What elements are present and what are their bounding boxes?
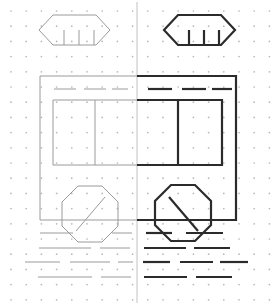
- grid-dot: [147, 147, 149, 149]
- grid-dot: [253, 147, 255, 149]
- grid-dot: [71, 56, 73, 58]
- grid-dot: [147, 299, 149, 301]
- grid-dot: [208, 162, 210, 164]
- grid-dot: [132, 147, 134, 149]
- grid-dot: [41, 253, 43, 255]
- grid-dot: [25, 71, 27, 73]
- grid-dot: [208, 86, 210, 88]
- grid-dot: [147, 86, 149, 88]
- grid-dot: [71, 86, 73, 88]
- grid-dot: [25, 238, 27, 240]
- grid-dot: [269, 223, 271, 225]
- grid-dot: [269, 147, 271, 149]
- grid-dot: [238, 238, 240, 240]
- grid-dot: [117, 162, 119, 164]
- grid-dot: [238, 132, 240, 134]
- grid-dot: [86, 101, 88, 103]
- grid-dot: [10, 117, 12, 119]
- grid-dot: [162, 10, 164, 12]
- grid-dot: [269, 132, 271, 134]
- grid-dot: [25, 223, 27, 225]
- grid-dot: [132, 223, 134, 225]
- grid-dot: [269, 208, 271, 210]
- grid-dot: [208, 56, 210, 58]
- grid-dot: [193, 238, 195, 240]
- grid-dot: [71, 208, 73, 210]
- grid-dot: [101, 86, 103, 88]
- grid-dot: [56, 177, 58, 179]
- grid-dot: [101, 299, 103, 301]
- grid-dot: [10, 101, 12, 103]
- grid-dot: [253, 101, 255, 103]
- grid-dot: [25, 147, 27, 149]
- grid-dot: [208, 71, 210, 73]
- grid-dot: [193, 86, 195, 88]
- grid-dot: [238, 147, 240, 149]
- grid-dot: [117, 101, 119, 103]
- grid-dot: [117, 284, 119, 286]
- grid-dot: [101, 193, 103, 195]
- grid-dot: [132, 269, 134, 271]
- grid-dot: [253, 132, 255, 134]
- grid-dot: [132, 177, 134, 179]
- grid-dot: [208, 10, 210, 12]
- grid-dot: [86, 41, 88, 43]
- grid-dot: [71, 117, 73, 119]
- grid-dot: [56, 41, 58, 43]
- grid-dot: [253, 253, 255, 255]
- grid-dot: [147, 269, 149, 271]
- grid-dot: [71, 284, 73, 286]
- grid-dot: [41, 71, 43, 73]
- grid-dot: [269, 299, 271, 301]
- grid-dot: [86, 238, 88, 240]
- grid-dot: [10, 253, 12, 255]
- grid-dot: [41, 117, 43, 119]
- grid-dot: [162, 71, 164, 73]
- grid-dot: [132, 132, 134, 134]
- grid-dot: [132, 238, 134, 240]
- grid-dot: [223, 56, 225, 58]
- grid-dot: [223, 101, 225, 103]
- grid-dot: [162, 56, 164, 58]
- grid-dot: [238, 86, 240, 88]
- grid-dot: [269, 117, 271, 119]
- grid-dot: [101, 25, 103, 27]
- grid-dot: [86, 284, 88, 286]
- grid-dot: [101, 56, 103, 58]
- grid-dot: [56, 223, 58, 225]
- grid-dot: [177, 177, 179, 179]
- grid-dot: [117, 299, 119, 301]
- grid-dot: [71, 25, 73, 27]
- grid-dot: [117, 269, 119, 271]
- grid-dot: [208, 147, 210, 149]
- grid-dot: [71, 223, 73, 225]
- grid-dot: [25, 101, 27, 103]
- grid-dot: [86, 253, 88, 255]
- grid-dot: [269, 56, 271, 58]
- grid-dot: [56, 132, 58, 134]
- grid-dot: [269, 41, 271, 43]
- grid-dot: [25, 253, 27, 255]
- grid-dot: [10, 147, 12, 149]
- grid-dot: [269, 177, 271, 179]
- grid-dot: [132, 101, 134, 103]
- grid-dot: [147, 177, 149, 179]
- grid-dot: [223, 177, 225, 179]
- grid-dot: [117, 177, 119, 179]
- grid-dot: [238, 284, 240, 286]
- grid-dot: [253, 193, 255, 195]
- grid-dot: [132, 56, 134, 58]
- grid-dot: [208, 269, 210, 271]
- grid-dot: [10, 208, 12, 210]
- grid-dot: [147, 223, 149, 225]
- grid-dot: [25, 56, 27, 58]
- grid-dot: [193, 10, 195, 12]
- grid-dot: [71, 101, 73, 103]
- grid-dot: [132, 86, 134, 88]
- grid-dot: [253, 284, 255, 286]
- grid-dot: [86, 223, 88, 225]
- grid-dot: [117, 117, 119, 119]
- grid-dot: [162, 223, 164, 225]
- grid-dot: [193, 117, 195, 119]
- grid-dot: [238, 299, 240, 301]
